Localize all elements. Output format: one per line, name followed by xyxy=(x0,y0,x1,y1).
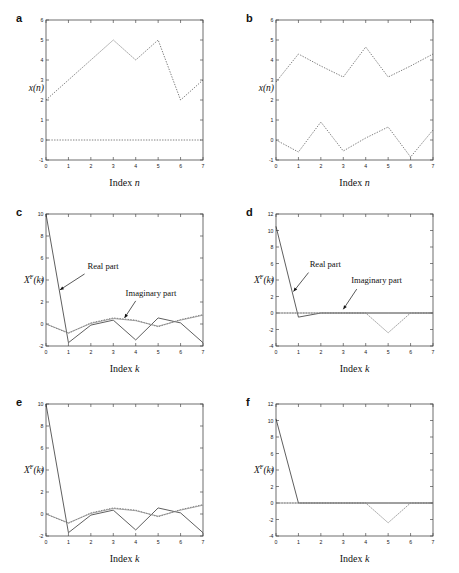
x-tick-label: 0 xyxy=(45,349,48,355)
x-tick-label: 7 xyxy=(202,349,205,355)
x-tick-label: 5 xyxy=(387,163,390,169)
x-tick-label: 6 xyxy=(179,163,182,169)
x-tick-label: 6 xyxy=(179,349,182,355)
y-tick-label: 6 xyxy=(271,17,274,23)
y-tick-label: 2 xyxy=(271,484,274,490)
y-tick-label: 5 xyxy=(271,37,274,43)
y-tick-label: -2 xyxy=(39,533,44,539)
annotation-label: Imaginary part xyxy=(126,288,177,298)
y-tick-label: 8 xyxy=(41,423,44,429)
x-tick-label: 2 xyxy=(89,539,92,545)
y-tick-label: 12 xyxy=(268,401,274,407)
x-tick-label: 0 xyxy=(45,539,48,545)
y-tick-label: 6 xyxy=(41,445,44,451)
y-tick-label: 4 xyxy=(271,57,274,63)
y-tick-label: -2 xyxy=(39,343,44,349)
x-tick-label: 1 xyxy=(297,349,300,355)
x-tick-label: 3 xyxy=(342,163,345,169)
x-tick-label: 7 xyxy=(432,349,435,355)
y-tick-label: 4 xyxy=(41,277,44,283)
y-tick-label: 3 xyxy=(271,77,274,83)
x-tick-label: 1 xyxy=(67,349,70,355)
y-tick-label: 1 xyxy=(41,117,44,123)
series-line xyxy=(46,214,203,343)
x-tick-label: 1 xyxy=(297,163,300,169)
y-tick-label: 6 xyxy=(271,451,274,457)
annotation-arrow xyxy=(60,274,85,290)
y-tick-label: 2 xyxy=(41,489,44,495)
x-tick-label: 3 xyxy=(112,349,115,355)
plot-f: 01234567-4-2024681012 xyxy=(252,398,435,556)
annotation-arrowhead xyxy=(60,286,64,290)
y-tick-label: 8 xyxy=(271,244,274,250)
y-tick-label: 10 xyxy=(268,418,274,424)
x-tick-label: 6 xyxy=(409,539,412,545)
y-tick-label: 4 xyxy=(41,467,44,473)
series-line xyxy=(276,503,433,523)
series-line xyxy=(276,226,433,317)
x-tick-label: 7 xyxy=(432,163,435,169)
annotation-label: Real part xyxy=(310,259,342,269)
y-tick-label: -2 xyxy=(269,517,274,523)
panel-label-f: f xyxy=(246,396,250,408)
x-tick-label: 6 xyxy=(409,163,412,169)
y-tick-label: 10 xyxy=(38,211,44,217)
plot-c: 01234567-20246810Real partImaginary part xyxy=(22,208,205,366)
y-tick-label: 2 xyxy=(41,97,44,103)
annotation-label: Real part xyxy=(87,261,119,271)
y-tick-label: 6 xyxy=(41,255,44,261)
x-tick-label: 0 xyxy=(45,163,48,169)
x-tick-label: 5 xyxy=(387,539,390,545)
x-tick-label: 4 xyxy=(134,349,137,355)
y-tick-label: 0 xyxy=(271,137,274,143)
y-tick-label: 2 xyxy=(271,97,274,103)
x-tick-label: 3 xyxy=(342,539,345,545)
series-line xyxy=(276,419,433,503)
y-tick-label: 2 xyxy=(271,294,274,300)
y-tick-label: 4 xyxy=(41,57,44,63)
y-tick-label: 0 xyxy=(41,511,44,517)
annotation-arrowhead xyxy=(125,314,129,318)
y-tick-label: 0 xyxy=(271,500,274,506)
x-tick-label: 3 xyxy=(112,539,115,545)
x-tick-label: 0 xyxy=(275,163,278,169)
x-tick-label: 5 xyxy=(387,349,390,355)
plot-a: 01234567-10123456 xyxy=(22,14,205,180)
y-tick-label: 0 xyxy=(271,310,274,316)
y-tick-label: 4 xyxy=(271,277,274,283)
x-tick-label: 4 xyxy=(364,539,367,545)
y-tick-label: -2 xyxy=(269,327,274,333)
series-line xyxy=(276,313,433,333)
y-tick-label: 1 xyxy=(271,117,274,123)
x-tick-label: 2 xyxy=(319,349,322,355)
y-tick-label: 3 xyxy=(41,77,44,83)
x-tick-label: 2 xyxy=(319,163,322,169)
x-tick-label: 1 xyxy=(67,539,70,545)
x-tick-label: 7 xyxy=(202,163,205,169)
series-line xyxy=(276,47,433,82)
x-tick-label: 0 xyxy=(275,539,278,545)
y-tick-label: 10 xyxy=(38,401,44,407)
x-tick-label: 5 xyxy=(157,539,160,545)
annotation-arrowhead xyxy=(343,305,347,309)
x-tick-label: 2 xyxy=(89,349,92,355)
x-tick-label: 4 xyxy=(134,163,137,169)
x-tick-label: 5 xyxy=(157,163,160,169)
series-line xyxy=(46,404,203,533)
x-tick-label: 7 xyxy=(432,539,435,545)
figure-container: ax(n)Index n01234567-10123456bx(n)Index … xyxy=(0,0,459,573)
y-tick-label: 8 xyxy=(41,233,44,239)
x-tick-label: 5 xyxy=(157,349,160,355)
y-tick-label: 0 xyxy=(41,137,44,143)
x-tick-label: 3 xyxy=(342,349,345,355)
y-tick-label: 10 xyxy=(268,228,274,234)
plot-b: 01234567-10123456 xyxy=(252,14,435,180)
x-tick-label: 4 xyxy=(364,349,367,355)
x-tick-label: 1 xyxy=(67,163,70,169)
y-tick-label: 8 xyxy=(271,434,274,440)
y-tick-label: -4 xyxy=(269,533,274,539)
y-tick-label: 6 xyxy=(271,261,274,267)
x-tick-label: 4 xyxy=(364,163,367,169)
y-tick-label: 2 xyxy=(41,299,44,305)
x-tick-label: 6 xyxy=(179,539,182,545)
